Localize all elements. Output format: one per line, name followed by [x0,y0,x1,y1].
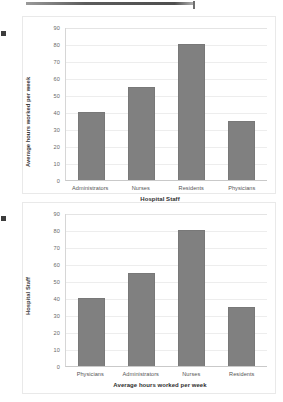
y-tick-label: 70 [54,245,60,251]
chart-top-plot-wrap: Average hours worked per week 90 80 70 6… [23,17,275,193]
y-tick-label: 40 [54,296,60,302]
x-tick-label: Administrators [116,371,167,377]
y-tick-label: 90 [54,211,60,217]
page-top-rule [26,2,195,5]
y-tick-label: 60 [54,262,60,268]
y-tick-label: 70 [54,59,60,65]
bar-slot [167,28,217,180]
chart-bottom: Hospital Staff 90 80 70 60 50 40 30 20 1… [22,202,276,394]
chart-top-y-axis-title: Average hours worked per week [25,77,31,167]
chart-bottom-x-axis-title: Average hours worked per week [23,382,275,388]
left-edge-marker-top [1,31,6,36]
bar-administrators[interactable] [128,273,155,367]
chart-bottom-x-tick-labels: Physicians Administrators Nurses Residen… [65,371,267,377]
bar-residents[interactable] [178,44,205,180]
y-tick-label: 0 [57,364,60,370]
y-tick-label: 40 [54,110,60,116]
bar-nurses[interactable] [128,87,155,181]
bar-slot [66,214,116,366]
chart-top-x-tick-labels: Administrators Nurses Residents Physicia… [65,185,267,191]
left-edge-marker-bottom [1,216,6,221]
chart-top-bars [66,28,267,180]
y-tick-label: 60 [54,76,60,82]
y-tick-label: 30 [54,313,60,319]
x-tick-label: Residents [166,185,217,191]
y-tick-label: 20 [54,144,60,150]
bar-nurses[interactable] [178,230,205,366]
x-tick-label: Administrators [65,185,116,191]
bar-slot [167,214,217,366]
y-tick-label: 50 [54,93,60,99]
bar-slot [66,28,116,180]
y-tick-label: 80 [54,42,60,48]
chart-top: Average hours worked per week 90 80 70 6… [22,16,276,194]
chart-bottom-y-axis-title: Hospital Staff [25,277,31,315]
x-tick-label: Nurses [166,371,217,377]
bar-slot [217,214,267,366]
y-tick-label: 90 [54,25,60,31]
bar-slot [116,214,166,366]
page-top-rule-cap [193,1,195,9]
chart-bottom-plot-area [65,214,267,367]
x-tick-label: Physicians [65,371,116,377]
chart-top-plot-area [65,28,267,181]
x-tick-label: Physicians [217,185,268,191]
bar-residents[interactable] [228,307,255,367]
y-tick-label: 10 [54,347,60,353]
y-tick-label: 50 [54,279,60,285]
y-tick-label: 30 [54,127,60,133]
chart-bottom-bars [66,214,267,366]
y-tick-label: 80 [54,228,60,234]
bar-physicians[interactable] [78,298,105,366]
bar-slot [217,28,267,180]
x-tick-label: Nurses [116,185,167,191]
chart-bottom-plot-wrap: Hospital Staff 90 80 70 60 50 40 30 20 1… [23,203,275,393]
y-tick-label: 0 [57,178,60,184]
bar-slot [116,28,166,180]
y-tick-label: 10 [54,161,60,167]
y-tick-label: 20 [54,330,60,336]
bar-administrators[interactable] [78,112,105,180]
page: Average hours worked per week 90 80 70 6… [0,0,283,402]
chart-top-y-tick-labels: 90 80 70 60 50 40 30 20 10 0 [43,17,63,193]
x-tick-label: Residents [217,371,268,377]
bar-physicians[interactable] [228,121,255,181]
chart-bottom-y-tick-labels: 90 80 70 60 50 40 30 20 10 0 [43,203,63,393]
